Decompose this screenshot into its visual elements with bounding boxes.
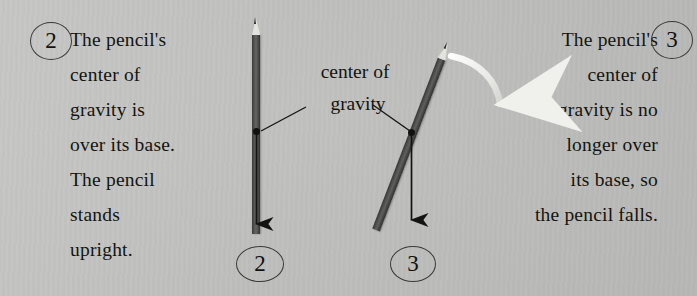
center-of-gravity-dot-tilted (408, 129, 415, 136)
falling-motion-arrow (451, 56, 500, 104)
leader-line-right (373, 105, 410, 131)
figure-number-2-label: 2 (254, 251, 266, 277)
figure-scene: 2 3 The pencil's center of gravity is ov… (0, 0, 697, 296)
figure-number-3-label: 3 (407, 251, 419, 277)
figure-number-badge-3: 3 (390, 246, 436, 282)
annotation-overlay (0, 0, 697, 296)
center-of-gravity-dot-upright (253, 128, 260, 135)
leader-line-left (261, 107, 306, 131)
figure-number-badge-2: 2 (236, 246, 284, 282)
